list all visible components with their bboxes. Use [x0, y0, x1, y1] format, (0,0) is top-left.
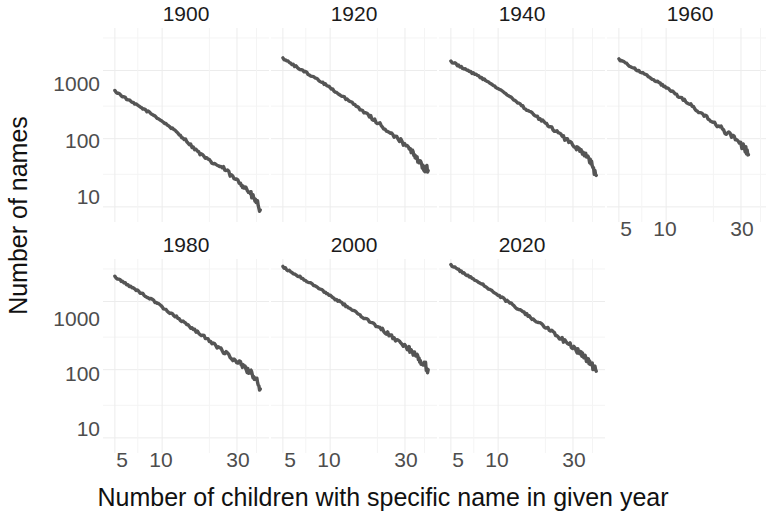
x-tick-label-10-2020: 10 — [485, 449, 508, 470]
panel-title-2020: 2020 — [439, 233, 605, 257]
gridlines — [607, 28, 766, 222]
y-tick-label-1000-top: 1000 — [53, 73, 100, 94]
x-tick-labels-2000: 5 10 30 — [271, 449, 437, 475]
y-tick-labels-row-1: 1000 100 10 — [28, 0, 100, 230]
panel-1920: 1920 — [271, 0, 437, 222]
x-tick-labels-2020: 5 10 30 — [439, 449, 605, 475]
panel-2020: 2020 — [439, 231, 605, 453]
y-tick-label-100-bottom: 100 — [65, 363, 100, 384]
x-axis-title-text: Number of children with specific name in… — [97, 483, 668, 512]
x-tick-label-5-1980: 5 — [116, 449, 128, 470]
panel-svg-2020 — [439, 259, 605, 453]
panel-title-1960: 1960 — [607, 2, 766, 26]
panel-svg-2000 — [271, 259, 437, 453]
y-tick-label-10-bottom: 10 — [77, 418, 100, 439]
panel-plot-1960 — [607, 28, 766, 222]
x-tick-label-30-1980: 30 — [226, 449, 249, 470]
y-tick-label-10-top: 10 — [77, 186, 100, 207]
panel-plot-1940 — [439, 28, 605, 222]
gridlines — [103, 259, 269, 453]
x-tick-label-5-1960: 5 — [620, 218, 632, 239]
panel-2000: 2000 — [271, 231, 437, 453]
series-line-1900 — [115, 90, 260, 211]
panel-title-1920: 1920 — [271, 2, 437, 26]
series-line-1960 — [619, 59, 749, 155]
x-tick-label-30-2020: 30 — [562, 449, 585, 470]
panel-title-1940: 1940 — [439, 2, 605, 26]
series-line-2000 — [283, 266, 428, 372]
gridlines — [103, 28, 269, 222]
x-tick-label-10-1960: 10 — [653, 218, 676, 239]
panel-svg-1920 — [271, 28, 437, 222]
x-tick-label-10-1980: 10 — [149, 449, 172, 470]
x-tick-labels-1960: 5 10 30 — [607, 218, 766, 244]
x-tick-label-5-2000: 5 — [284, 449, 296, 470]
panel-svg-1940 — [439, 28, 605, 222]
series-line-1980 — [115, 276, 260, 390]
gridlines — [439, 28, 605, 222]
panel-plot-2020 — [439, 259, 605, 453]
x-tick-label-5-2020: 5 — [452, 449, 464, 470]
panel-plot-2000 — [271, 259, 437, 453]
series-line-2020 — [451, 265, 596, 372]
series-line-1920 — [283, 58, 428, 172]
x-tick-labels-1980: 5 10 30 — [103, 449, 269, 475]
panel-plot-1980 — [103, 259, 269, 453]
panel-1900: 1900 — [103, 0, 269, 222]
y-tick-label-100-top: 100 — [65, 130, 100, 151]
gridlines — [271, 28, 437, 222]
y-tick-label-1000-bottom: 1000 — [53, 308, 100, 329]
panel-plot-1900 — [103, 28, 269, 222]
panel-1980: 1980 — [103, 231, 269, 453]
panel-1940: 1940 — [439, 0, 605, 222]
panel-1960: 1960 — [607, 0, 766, 222]
x-tick-label-10-2000: 10 — [317, 449, 340, 470]
panel-svg-1960 — [607, 28, 766, 222]
x-axis-title: Number of children with specific name in… — [0, 480, 766, 514]
x-tick-label-30-1960: 30 — [730, 218, 753, 239]
faceted-log-log-chart: Number of names 1000 100 10 1000 100 10 … — [0, 0, 766, 516]
series-line-1940 — [451, 61, 596, 175]
panel-title-1980: 1980 — [103, 233, 269, 257]
panel-plot-1920 — [271, 28, 437, 222]
panel-svg-1900 — [103, 28, 269, 222]
panel-title-1900: 1900 — [103, 2, 269, 26]
x-tick-label-30-2000: 30 — [394, 449, 417, 470]
y-tick-labels-row-2: 1000 100 10 — [28, 256, 100, 456]
panel-title-2000: 2000 — [271, 233, 437, 257]
panel-svg-1980 — [103, 259, 269, 453]
